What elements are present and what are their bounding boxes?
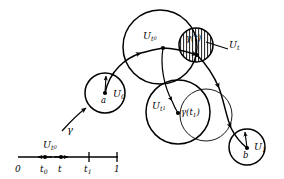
axis-tick-0-text: 0 <box>15 164 21 174</box>
point-gamma-t0 <box>161 46 165 50</box>
label-U-1-base: U <box>254 141 262 152</box>
dot-t <box>59 155 63 159</box>
point-gamma-t <box>195 53 199 57</box>
label-U-t1-set: Ut1 <box>152 101 166 112</box>
label-gamma-t1-base: γ(t <box>181 107 193 117</box>
gamma-path-lower <box>197 55 247 148</box>
label-U-t0-subsub: 0 <box>154 35 157 41</box>
dot-t0 <box>43 155 47 159</box>
gamma-label-pointer <box>62 108 86 131</box>
label-U-0-base: U <box>113 88 121 99</box>
label-U-1-sub: 1 <box>262 146 266 154</box>
label-U-0-set: U0 <box>113 89 125 100</box>
label-point-b: b <box>243 151 248 160</box>
label-U-0-sub: 0 <box>121 93 125 101</box>
label-gamma-t1-close: ) <box>196 107 199 117</box>
label-U-t-base: U <box>229 39 237 50</box>
label-U-t0-set: Ut0 <box>143 31 157 42</box>
label-U-t1-base: U <box>152 100 160 111</box>
axis-tick-1-text: 1 <box>114 164 120 174</box>
label-gamma-of-t-text: γ(t) <box>186 33 201 43</box>
axis-tick-label-0: 0 <box>15 165 21 174</box>
axis-tick-t-base: t <box>58 164 62 174</box>
label-gamma: γ <box>67 125 73 135</box>
math-diagram-figure: Ut0 γ(t) Ut U0 a Ut1 γ(t1) U1 b γ Ut0 0 <box>0 0 284 179</box>
label-point-a-text: a <box>101 95 106 105</box>
label-gamma-of-t1: γ(t1) <box>181 108 200 119</box>
number-line-group <box>18 152 118 162</box>
axis-tick-label-t: t <box>58 165 62 174</box>
diagram-canvas <box>0 0 284 179</box>
label-point-a: a <box>101 96 106 105</box>
open-set-circles <box>85 10 265 165</box>
label-interval-U-t0: Ut0 <box>43 140 57 151</box>
label-point-b-text: b <box>243 150 248 160</box>
label-U-t-sub: t <box>237 44 240 52</box>
label-gamma-text: γ <box>67 124 73 135</box>
axis-tick-label-1: 1 <box>114 165 120 174</box>
axis-tick-label-t0: t0 <box>40 165 48 175</box>
axis-tick-t1-sub: 1 <box>88 168 92 175</box>
label-gamma-of-t: γ(t) <box>186 34 201 43</box>
label-interval-U-t0-subsub: 0 <box>54 144 57 150</box>
label-U-t-set: Ut <box>229 40 240 51</box>
label-U-1-set: U1 <box>254 142 266 153</box>
label-U-t1-subsub: 1 <box>163 105 166 111</box>
axis-tick-t0-sub: 0 <box>44 168 48 175</box>
label-interval-U-t0-base: U <box>43 139 51 150</box>
point-gamma-t1 <box>176 111 180 115</box>
axis-tick-label-t1: t1 <box>84 165 92 175</box>
label-U-t0-base: U <box>143 30 151 41</box>
